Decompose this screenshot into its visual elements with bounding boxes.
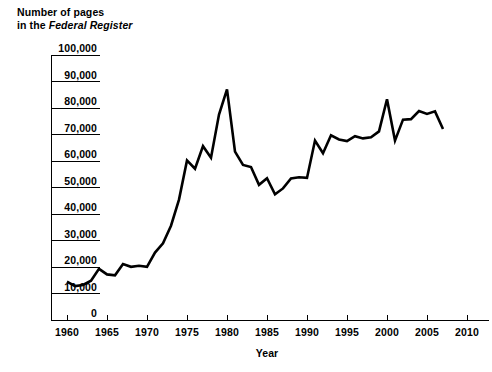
y-axis-tick-label: 80,000 (0, 95, 97, 107)
y-axis-tick-label: 50,000 (0, 175, 97, 187)
y-axis-tick-label: 20,000 (0, 254, 97, 266)
data-line (67, 89, 443, 286)
y-axis-tick-label: 100,000 (0, 42, 97, 54)
x-axis-tick-label: 2010 (444, 326, 490, 338)
y-axis-tick-label: 60,000 (0, 148, 97, 160)
y-axis-tick-label: 0 (0, 307, 97, 319)
chart-container: Number of pages in the Federal Register … (0, 0, 492, 372)
y-axis-tick-label: 90,000 (0, 69, 97, 81)
y-axis-tick-label: 70,000 (0, 122, 97, 134)
y-axis-tick-label: 10,000 (0, 281, 97, 293)
x-axis-title: Year (207, 347, 327, 359)
y-axis-tick-label: 30,000 (0, 228, 97, 240)
data-series-layer (67, 89, 443, 286)
y-axis-tick-label: 40,000 (0, 201, 97, 213)
axes-layer (51, 55, 489, 320)
